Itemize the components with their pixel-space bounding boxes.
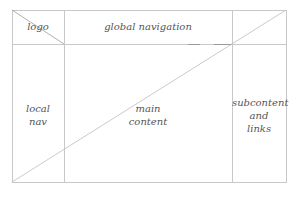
- local-nav-label: local nav: [12, 102, 64, 128]
- wireframe-diagram: logo global navigation local nav main co…: [0, 0, 296, 197]
- global-navigation-label: global navigation: [64, 20, 232, 33]
- main-content-label: main content: [64, 102, 232, 128]
- subcontent-label: subcontent and links: [232, 96, 286, 135]
- logo-label: logo: [12, 20, 64, 33]
